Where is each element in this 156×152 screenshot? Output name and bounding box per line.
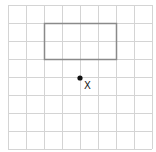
point-marker — [77, 75, 82, 80]
point-label: X — [84, 80, 91, 91]
grid-diagram: X — [0, 0, 156, 152]
